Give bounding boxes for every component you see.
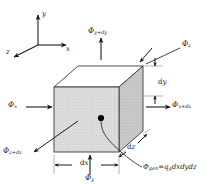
generation-volume: dxdydz xyxy=(172,163,197,171)
y-axis-label: y xyxy=(42,11,46,18)
dim-dx-label: dx xyxy=(80,160,88,167)
dim-dx-var: x xyxy=(84,159,88,167)
dim-dz-var: z xyxy=(131,143,135,151)
flux-right-subscript: x+dx xyxy=(178,103,191,109)
dim-dz-label: dz xyxy=(127,144,135,151)
flux-left-subscript: x xyxy=(14,103,17,109)
z-axis-label: z xyxy=(6,49,10,56)
generation-label: Φgen=qgdxdydz xyxy=(143,164,197,171)
flux-bottom-label: Φy xyxy=(85,174,94,182)
x-axis-label: x xyxy=(66,46,70,53)
flux-front-subscript: z+dz xyxy=(9,149,22,155)
center-point xyxy=(98,115,104,121)
dim-dy-var: y xyxy=(162,78,166,86)
flux-back-subscript: z xyxy=(188,42,191,48)
flux-back-label: Φz xyxy=(182,40,191,48)
cube-front-face xyxy=(54,87,119,152)
flux-top-label: Φy+dy xyxy=(88,27,107,35)
dim-dz-arrow-far xyxy=(138,134,147,143)
flux-back-arrow xyxy=(140,48,152,62)
cube-body xyxy=(54,66,143,152)
flux-top-subscript: y+dy xyxy=(94,29,107,35)
coordinate-axes xyxy=(14,15,66,57)
z-axis-arrow xyxy=(14,45,38,57)
flux-back-leader xyxy=(146,48,180,64)
dim-dz-ext-far xyxy=(143,129,150,134)
flux-right-label: Φx+dx xyxy=(172,101,191,109)
flux-front-label: Φz+dz xyxy=(3,147,22,155)
flux-bottom-subscript: y xyxy=(91,176,94,182)
flux-left-label: Φx xyxy=(8,101,17,109)
dim-dy-label: dy xyxy=(158,79,166,86)
generation-subscript: gen xyxy=(149,165,158,171)
